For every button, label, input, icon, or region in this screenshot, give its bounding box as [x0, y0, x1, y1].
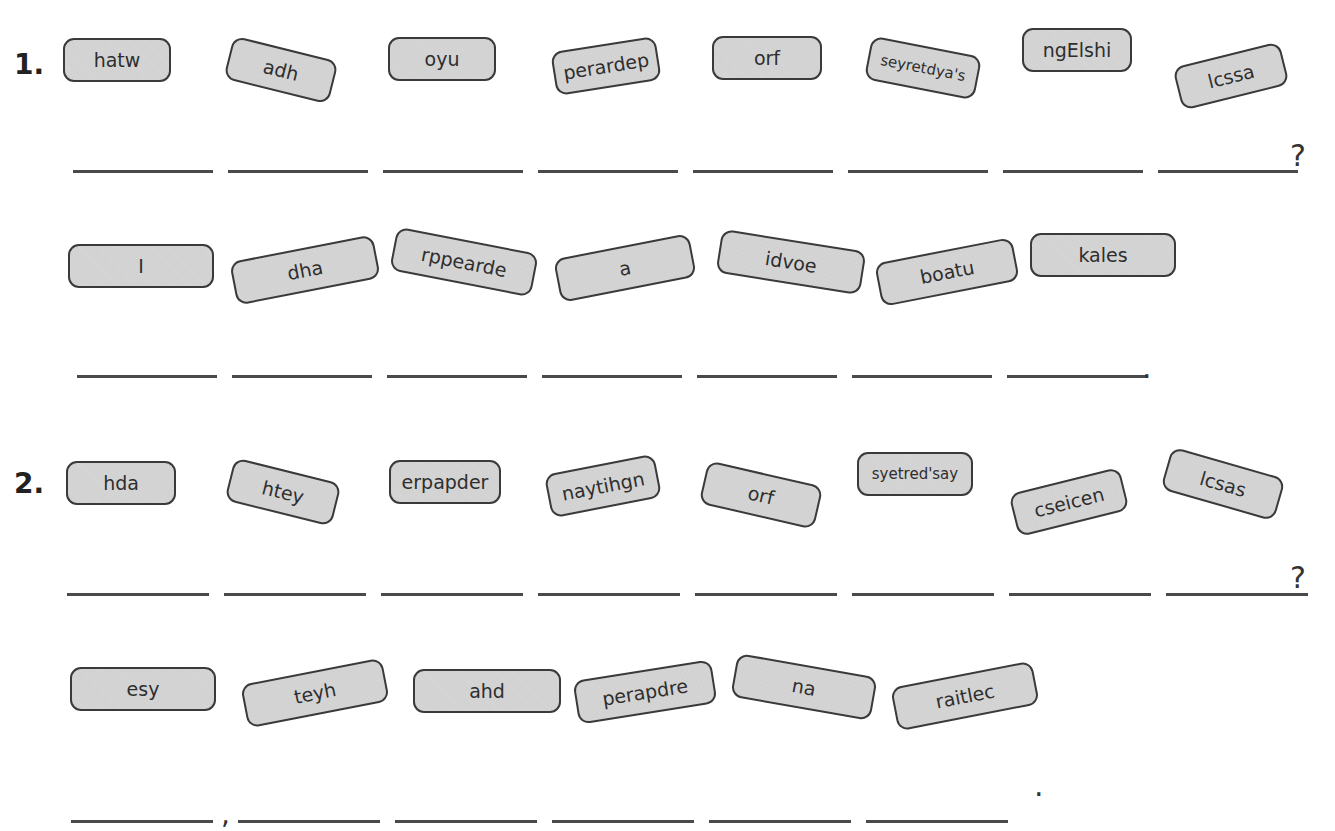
exercise-1-question-blanks [73, 170, 1298, 173]
exercise-number: 1. [14, 48, 44, 81]
word-tile[interactable]: boatu [874, 237, 1020, 307]
answer-blank[interactable] [697, 375, 837, 378]
answer-blank[interactable] [1166, 593, 1308, 596]
word-tile[interactable]: hatw [63, 38, 171, 82]
end-punctuation: . [1142, 350, 1152, 385]
answer-blank[interactable] [73, 170, 213, 173]
word-tile[interactable]: rppearde [389, 227, 539, 298]
word-tile[interactable]: dha [229, 234, 381, 305]
answer-blank[interactable] [695, 593, 837, 596]
answer-blank[interactable] [866, 820, 1008, 823]
word-tile[interactable]: I [68, 244, 214, 288]
cut-off-title [20, 0, 700, 6]
word-tile[interactable]: lcsas [1160, 447, 1286, 522]
end-punctuation: ? [1290, 560, 1306, 595]
answer-blank[interactable] [552, 820, 694, 823]
end-punctuation: ? [1290, 138, 1306, 173]
word-tile[interactable]: orf [699, 460, 824, 529]
answer-blank[interactable] [1009, 593, 1151, 596]
word-tile[interactable]: raitlec [890, 661, 1040, 732]
answer-blank[interactable] [383, 170, 523, 173]
answer-blank[interactable] [238, 820, 380, 823]
answer-blank[interactable] [852, 375, 992, 378]
answer-blank[interactable] [709, 820, 851, 823]
end-punctuation: . [1034, 768, 1044, 803]
word-tile[interactable]: idvoe [715, 229, 866, 295]
exercise-2-question-blanks [67, 593, 1308, 596]
answer-blank[interactable] [542, 375, 682, 378]
word-tile[interactable]: naytihgn [544, 454, 662, 519]
answer-blank[interactable] [387, 375, 527, 378]
word-tile[interactable]: kales [1030, 233, 1176, 277]
word-tile[interactable]: perardep [550, 36, 662, 96]
exercise-1-answer-blanks [77, 375, 1147, 378]
answer-blank[interactable] [77, 375, 217, 378]
word-tile[interactable]: adh [223, 36, 338, 105]
answer-blank[interactable] [71, 820, 213, 823]
word-tile[interactable]: ngElshi [1022, 28, 1132, 72]
exercise-2-answer-blanks: , [71, 795, 1008, 823]
word-tile[interactable]: a [553, 233, 697, 303]
answer-blank[interactable] [693, 170, 833, 173]
answer-blank[interactable] [228, 170, 368, 173]
word-tile[interactable]: orf [712, 36, 822, 80]
word-tile[interactable]: hda [66, 461, 176, 505]
answer-blank[interactable] [538, 593, 680, 596]
exercise-number: 2. [14, 467, 44, 500]
word-tile[interactable]: ahd [413, 669, 561, 713]
word-tile[interactable]: htey [224, 457, 341, 526]
answer-blank[interactable] [224, 593, 366, 596]
word-tile[interactable]: cseicen [1008, 467, 1129, 537]
word-tile[interactable]: esy [70, 667, 216, 711]
answer-blank[interactable] [1003, 170, 1143, 173]
word-tile[interactable]: na [730, 653, 877, 721]
word-tile[interactable]: lcssa [1172, 41, 1289, 110]
word-tile[interactable]: perapdre [572, 659, 717, 724]
answer-blank[interactable] [848, 170, 988, 173]
word-tile[interactable]: seyretdya's [864, 36, 982, 101]
word-tile[interactable]: oyu [388, 37, 496, 81]
answer-blank[interactable] [1007, 375, 1147, 378]
answer-blank[interactable] [232, 375, 372, 378]
comma: , [221, 801, 230, 829]
word-tile[interactable]: teyh [240, 658, 390, 729]
answer-blank[interactable] [67, 593, 209, 596]
answer-blank[interactable] [381, 593, 523, 596]
word-tile[interactable]: syetred'say [857, 452, 973, 496]
word-tile[interactable]: erpapder [389, 460, 501, 504]
answer-blank[interactable] [852, 593, 994, 596]
answer-blank[interactable] [1158, 170, 1298, 173]
answer-blank[interactable] [395, 820, 537, 823]
answer-blank[interactable] [538, 170, 678, 173]
